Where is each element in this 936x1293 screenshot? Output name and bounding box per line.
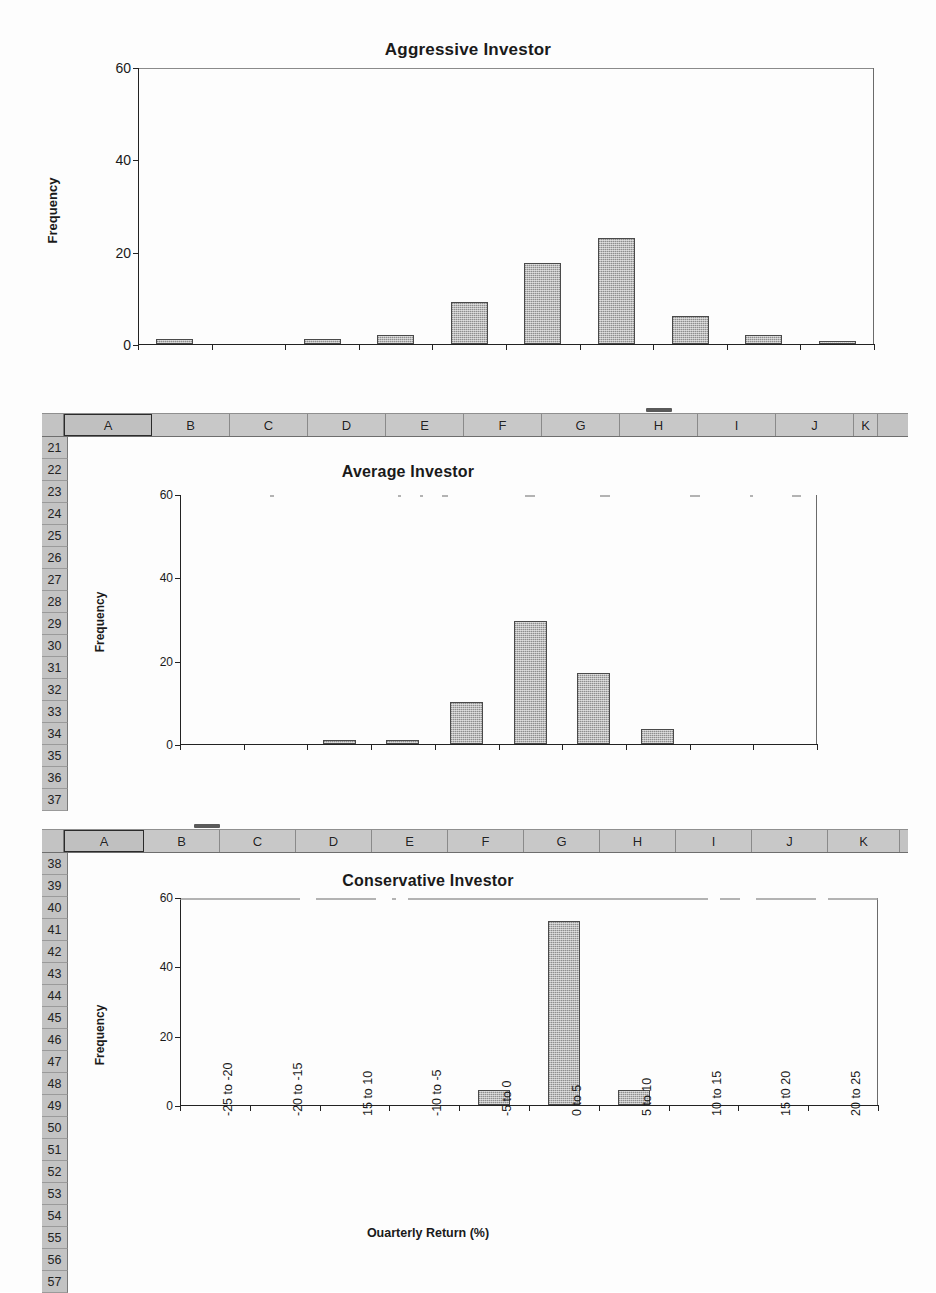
row-header-37[interactable]: 37 [42, 789, 68, 811]
plot-area-aggressive: 0204060 [138, 68, 874, 345]
x-axis-category-label: -25 to -20 [221, 1062, 235, 1116]
x-axis-tick [435, 744, 436, 750]
column-header-i[interactable]: I [676, 830, 752, 852]
column-header-e[interactable]: E [386, 414, 464, 436]
bar [641, 729, 674, 744]
column-header-b[interactable]: B [152, 414, 230, 436]
y-axis-tick-label: 60 [160, 891, 173, 905]
column-header-d[interactable]: D [296, 830, 372, 852]
x-axis-title: Ouarterly Return (%) [0, 1226, 896, 1240]
column-header-h[interactable]: H [600, 830, 676, 852]
bar [304, 339, 341, 344]
select-all-corner[interactable] [42, 414, 64, 436]
bar [156, 339, 193, 344]
y-axis-tick [133, 253, 139, 254]
bar [524, 263, 561, 344]
x-axis-tick [180, 744, 181, 750]
scan-speckle [392, 898, 396, 900]
x-axis-tick [389, 1105, 390, 1111]
y-axis-tick-label: 40 [160, 571, 173, 585]
column-header-h[interactable]: H [620, 414, 698, 436]
y-axis-line [180, 898, 181, 1106]
y-axis-tick-label: 20 [160, 1030, 173, 1044]
x-axis-tick [529, 1105, 530, 1111]
x-axis-tick [727, 344, 728, 350]
column-header-e[interactable]: E [372, 830, 448, 852]
column-header-f[interactable]: F [464, 414, 542, 436]
x-axis-tick [180, 1105, 181, 1111]
x-axis-category-label: 15 to 10 [361, 1071, 375, 1116]
y-axis-tick [133, 68, 139, 69]
chart-title-aggressive: Aggressive Investor [0, 40, 936, 60]
bar [548, 921, 580, 1105]
x-axis-tick [138, 344, 139, 350]
bar [377, 335, 414, 344]
column-header-c[interactable]: C [220, 830, 296, 852]
x-axis-category-label: -10 to -5 [430, 1069, 444, 1116]
column-header-j[interactable]: J [776, 414, 854, 436]
chart-aggressive-investor: Aggressive Investor Frequency 0204060 [0, 28, 936, 368]
scan-speckle [828, 898, 878, 900]
plot-frame-top [180, 495, 817, 496]
column-header-b[interactable]: B [144, 830, 220, 852]
x-axis-category-label: 0 to 5 [570, 1085, 584, 1116]
scan-speckle [316, 898, 376, 900]
column-header-k[interactable]: K [828, 830, 900, 852]
x-axis-tick [817, 744, 818, 750]
x-axis-tick [753, 744, 754, 750]
bar [386, 740, 419, 744]
x-axis-tick [359, 344, 360, 350]
scan-speckle [442, 495, 448, 497]
scan-artifact-notch [646, 408, 672, 412]
y-axis-tick [175, 578, 181, 579]
column-header-k[interactable]: K [854, 414, 878, 436]
x-axis-tick [738, 1105, 739, 1111]
y-axis-tick-label: 0 [166, 738, 173, 752]
y-axis-tick [175, 1037, 181, 1038]
x-axis-tick [690, 744, 691, 750]
y-axis-tick-label: 0 [123, 337, 131, 353]
x-axis-category-label: 10 to 15 [710, 1071, 724, 1116]
x-axis-tick [250, 1105, 251, 1111]
row-header-57[interactable]: 57 [42, 1271, 68, 1293]
x-axis-tick [459, 1105, 460, 1111]
x-axis-tick [320, 1105, 321, 1111]
bar [819, 341, 856, 344]
column-header-g[interactable]: G [542, 414, 620, 436]
column-header-a[interactable]: A [64, 830, 144, 852]
plot-frame-top [138, 68, 874, 69]
x-axis-category-label: -20 to -15 [291, 1062, 305, 1116]
column-header-row-2[interactable]: ABCDEFGHIJK [42, 829, 908, 853]
scan-speckle [720, 898, 740, 900]
plot-area-average: 0204060 [180, 495, 817, 745]
bar [451, 302, 488, 344]
bar [450, 702, 483, 744]
x-axis-tick [808, 1105, 809, 1111]
column-header-a[interactable]: A [64, 414, 152, 436]
x-axis-category-label: -5 to 0 [500, 1081, 514, 1116]
column-header-row-1[interactable]: ABCDEFGHIJK [42, 413, 908, 437]
x-axis-tick [212, 344, 213, 350]
column-header-g[interactable]: G [524, 830, 600, 852]
y-axis-tick-label: 60 [160, 488, 173, 502]
y-axis-tick-label: 40 [115, 152, 131, 168]
column-header-c[interactable]: C [230, 414, 308, 436]
x-axis-tick [878, 1105, 879, 1111]
x-axis-tick [499, 744, 500, 750]
chart-average-investor: Average Investor Frequency 0204060 [0, 455, 936, 775]
chart-title-average: Average Investor [0, 463, 876, 481]
y-axis-title-aggressive: Frequency [45, 151, 60, 271]
y-axis-line [180, 495, 181, 745]
column-header-f[interactable]: F [448, 830, 524, 852]
bar [672, 316, 709, 344]
bar [745, 335, 782, 344]
x-axis-tick [599, 1105, 600, 1111]
chart-conservative-investor: Conservative Investor Frequency 0204060 … [0, 868, 936, 1268]
column-header-i[interactable]: I [698, 414, 776, 436]
x-axis-tick [285, 344, 286, 350]
scan-speckle [600, 495, 610, 497]
column-header-j[interactable]: J [752, 830, 828, 852]
column-header-d[interactable]: D [308, 414, 386, 436]
select-all-corner[interactable] [42, 830, 64, 852]
